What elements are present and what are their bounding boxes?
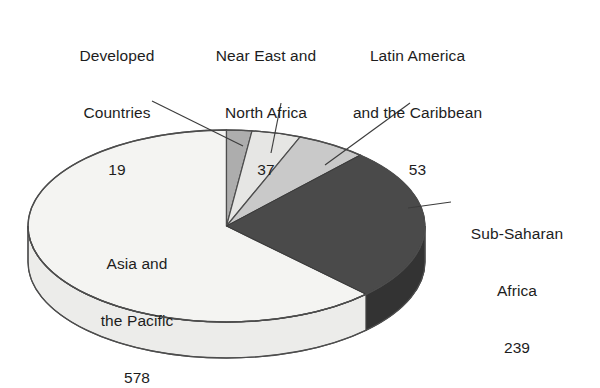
- slice-label-asia-and-the-pacific: Asia and the Pacific 578: [62, 216, 212, 388]
- slice-label-developed-countries: Developed Countries 19: [42, 8, 192, 217]
- slice-value: 578: [62, 368, 212, 387]
- pie-chart: Developed Countries 19 Near East and Nor…: [0, 0, 600, 388]
- slice-label-line2: Countries: [42, 103, 192, 122]
- slice-value: 53: [330, 160, 505, 179]
- slice-label-line1: Latin America: [330, 46, 505, 65]
- slice-label-line2: Africa: [452, 281, 582, 300]
- slice-label-near-east-and-north-africa: Near East and North Africa 37: [196, 8, 336, 217]
- slice-label-line2: and the Caribbean: [330, 103, 505, 122]
- slice-label-line1: Sub-Saharan: [452, 224, 582, 243]
- slice-label-sub-saharan-africa: Sub-Saharan Africa 239: [452, 186, 582, 388]
- slice-label-line2: the Pacific: [62, 311, 212, 330]
- slice-label-line2: North Africa: [196, 103, 336, 122]
- slice-label-line1: Asia and: [62, 254, 212, 273]
- slice-value: 19: [42, 160, 192, 179]
- slice-label-line1: Developed: [42, 46, 192, 65]
- slice-value: 239: [452, 338, 582, 357]
- slice-value: 37: [196, 160, 336, 179]
- slice-label-line1: Near East and: [196, 46, 336, 65]
